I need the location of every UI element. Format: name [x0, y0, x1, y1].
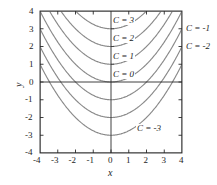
x-tick-label-0: -4	[33, 156, 41, 165]
x-axis-label: x	[108, 168, 112, 178]
x-tick-label-4: 0	[108, 156, 113, 165]
y-axis-label: y	[14, 83, 24, 87]
y-tick-label-6: -2	[25, 113, 33, 122]
curve-label-c1: C = 1	[112, 52, 135, 61]
curve-label-c0: C = 0	[112, 70, 135, 79]
y-tick-label-1: 3	[29, 25, 34, 34]
x-tick-label-3: -1	[87, 156, 95, 165]
y-tick-label-2: 2	[29, 42, 34, 51]
x-tick-label-7: 3	[162, 156, 167, 165]
y-tick-label-7: -3	[25, 131, 33, 140]
y-tick-label-5: -1	[25, 95, 33, 104]
contour-plot-figure: -4 -3 -2 -1 0 1 2 3 4 4 3 2 1 0 -1 -2 -3…	[0, 0, 217, 185]
x-tick-label-2: -2	[69, 156, 77, 165]
x-tick-label-6: 2	[144, 156, 149, 165]
y-tick-label-3: 1	[29, 60, 34, 69]
curve-label-c3: C = 3	[112, 16, 135, 25]
curve-label-cm3: C = -3	[136, 124, 162, 133]
curve-label-cm1: C = -1	[185, 24, 211, 33]
y-tick-label-8: -4	[25, 148, 33, 157]
x-tick-label-1: -3	[51, 156, 59, 165]
y-tick-label-4: 0	[29, 78, 34, 87]
curve-label-c2: C = 2	[112, 34, 135, 43]
curve-label-cm2: C = -2	[185, 42, 211, 51]
y-tick-label-0: 4	[29, 7, 34, 16]
x-tick-label-8: 4	[179, 156, 184, 165]
x-tick-label-5: 1	[126, 156, 131, 165]
